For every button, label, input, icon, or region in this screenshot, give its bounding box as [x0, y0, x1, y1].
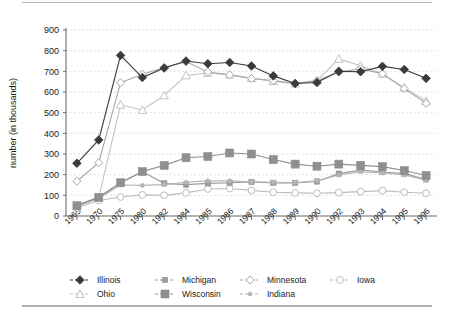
series-iowa	[74, 185, 430, 211]
data-point-marker	[270, 189, 277, 196]
data-point-marker	[117, 79, 125, 87]
legend-item-ohio[interactable]: Ohio	[70, 289, 115, 299]
data-point-marker	[161, 290, 169, 298]
data-point-marker	[160, 161, 168, 169]
legend-item-illinois[interactable]: Illinois	[70, 275, 121, 285]
y-tick-label: 900	[44, 25, 59, 35]
data-point-marker	[95, 193, 103, 201]
data-point-marker	[184, 180, 188, 184]
data-point-marker	[182, 57, 191, 66]
data-point-marker	[228, 179, 232, 183]
data-point-marker	[138, 168, 146, 176]
legend-label: Michigan	[182, 275, 216, 285]
data-point-marker	[76, 276, 85, 285]
data-point-marker	[314, 190, 321, 197]
legend-label: Iowa	[357, 275, 375, 285]
y-tick-label: 200	[44, 170, 59, 180]
data-point-marker	[182, 154, 190, 162]
data-point-marker	[357, 161, 365, 169]
legend-item-michigan[interactable]: Michigan	[155, 275, 216, 285]
y-axis-title: number (in thousands)	[8, 78, 18, 168]
data-point-marker	[337, 277, 344, 284]
legend-item-indiana[interactable]: Indiana	[240, 289, 295, 299]
data-point-marker	[73, 202, 81, 210]
legend-item-iowa[interactable]: Iowa	[330, 275, 375, 285]
y-tick-label: 100	[44, 191, 59, 201]
data-point-marker	[204, 59, 213, 68]
legend-item-minnesota[interactable]: Minnesota	[240, 275, 306, 285]
data-point-marker	[400, 65, 409, 74]
data-point-marker	[335, 189, 342, 196]
data-point-marker	[161, 192, 168, 199]
data-point-marker	[378, 62, 387, 71]
data-point-marker	[248, 150, 256, 158]
data-point-marker	[226, 185, 233, 192]
data-series-layer	[73, 51, 431, 211]
y-tick-label: 0	[54, 211, 59, 221]
data-point-marker	[422, 171, 430, 179]
legend-label: Ohio	[97, 289, 115, 299]
legend-label: Wisconsin	[182, 289, 221, 299]
data-point-marker	[334, 67, 343, 76]
data-point-marker	[400, 167, 408, 175]
data-point-marker	[422, 99, 430, 107]
data-point-marker	[379, 187, 386, 194]
data-point-marker	[183, 189, 190, 196]
data-point-marker	[204, 152, 212, 160]
data-point-marker	[335, 160, 343, 168]
data-point-marker	[359, 170, 363, 174]
data-point-marker	[248, 187, 255, 194]
data-point-marker	[269, 156, 277, 164]
data-point-marker	[246, 276, 254, 284]
legend-item-wisconsin[interactable]: Wisconsin	[155, 289, 221, 299]
chart-legend: IllinoisMichiganMinnesotaIowaOhioWiscons…	[70, 275, 375, 299]
y-axis-tick-labels: 0100200300400500600700800900	[44, 25, 66, 221]
data-point-marker	[378, 163, 386, 171]
data-point-marker	[162, 277, 167, 282]
data-point-marker	[269, 72, 278, 81]
x-axis-tick-labels: 1965197019751980198219841985198619871988…	[62, 206, 432, 227]
data-point-marker	[249, 180, 253, 184]
data-point-marker	[117, 179, 125, 187]
data-point-marker	[139, 192, 146, 199]
chart-figure: 0100200300400500600700800900 19651970197…	[0, 0, 451, 320]
legend-label: Indiana	[267, 289, 295, 299]
data-point-marker	[162, 182, 166, 186]
data-point-marker	[380, 171, 384, 175]
legend-label: Minnesota	[267, 275, 306, 285]
data-point-marker	[291, 160, 299, 168]
data-point-marker	[206, 179, 210, 183]
data-point-marker	[337, 173, 341, 177]
y-tick-label: 300	[44, 149, 59, 159]
data-point-marker	[204, 186, 211, 193]
y-tick-label: 600	[44, 87, 59, 97]
data-point-marker	[248, 292, 252, 296]
data-point-marker	[247, 62, 256, 71]
data-point-marker	[117, 194, 124, 201]
data-point-marker	[140, 183, 144, 187]
data-point-marker	[293, 180, 297, 184]
y-tick-label: 500	[44, 108, 59, 118]
y-tick-label: 700	[44, 67, 59, 77]
line-chart-plot: 0100200300400500600700800900 19651970197…	[0, 0, 451, 320]
data-point-marker	[401, 189, 408, 196]
data-point-marker	[423, 190, 430, 197]
data-point-marker	[226, 149, 234, 157]
data-point-marker	[225, 58, 234, 67]
data-point-marker	[422, 74, 431, 83]
y-tick-label: 800	[44, 46, 59, 56]
data-point-marker	[116, 101, 124, 109]
data-point-marker	[313, 162, 321, 170]
data-point-marker	[335, 55, 343, 63]
data-point-marker	[357, 188, 364, 195]
data-point-marker	[271, 180, 275, 184]
data-point-marker	[315, 179, 319, 183]
y-tick-label: 400	[44, 129, 59, 139]
data-point-marker	[292, 189, 299, 196]
legend-label: Illinois	[97, 275, 121, 285]
